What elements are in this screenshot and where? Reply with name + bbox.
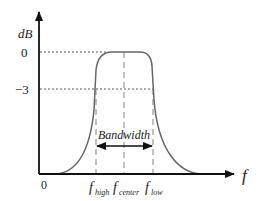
f-center-label: f center — [113, 180, 140, 197]
bandpass-diagram: dB 0 −3 0 f Bandwidth f high f center f … — [0, 0, 267, 201]
y-axis-label: dB — [18, 26, 33, 41]
y-tick-minus3-label: −3 — [15, 82, 29, 97]
bandwidth-label: Bandwidth — [98, 128, 150, 142]
f-high-label: f high — [89, 180, 109, 197]
svg-text:low: low — [151, 188, 163, 197]
origin-label: 0 — [41, 178, 47, 192]
f-low-label: f low — [145, 180, 163, 197]
response-curve — [55, 52, 200, 174]
y-tick-0-label: 0 — [21, 45, 28, 60]
x-axis-label: f — [242, 166, 249, 185]
svg-text:center: center — [119, 188, 140, 197]
svg-text:high: high — [95, 188, 109, 197]
